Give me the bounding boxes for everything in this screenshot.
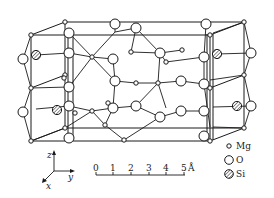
legend-label-mg: Mg [236, 141, 251, 151]
axes-indicator: z y x [42, 150, 75, 191]
scale-unit: Å [187, 162, 195, 173]
axis-label-y: y [67, 172, 74, 182]
scale-bar: 0 1 2 3 4 5 Å [93, 162, 195, 175]
z-arrow-icon [52, 150, 56, 155]
scale-tick-0: 0 [93, 163, 99, 173]
legend-label-o: O [236, 155, 243, 165]
scale-tick-1: 1 [110, 163, 116, 173]
legend-label-si: Si [236, 169, 245, 179]
legend: Mg O Si [225, 141, 252, 179]
si-legend-icon [225, 170, 234, 179]
magnesium-atoms [29, 20, 246, 143]
scale-tick-3: 3 [146, 163, 152, 173]
o-legend-icon [225, 156, 234, 165]
mg-legend-icon [227, 144, 231, 148]
crystal-structure-diagram: Mg O Si z y x 0 1 2 3 4 5 Å [0, 0, 274, 198]
axis-label-x: x [46, 181, 51, 191]
scale-tick-4: 4 [163, 163, 169, 173]
axis-label-z: z [46, 150, 52, 160]
scale-tick-2: 2 [128, 163, 134, 173]
scale-tick-5: 5 [181, 163, 187, 173]
